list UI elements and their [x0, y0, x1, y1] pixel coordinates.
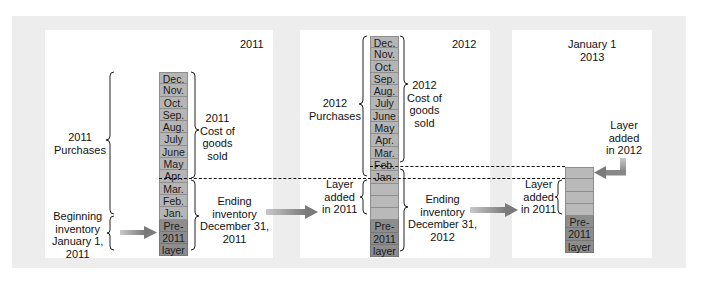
braces-and-arrows — [0, 0, 702, 285]
arrow-icon — [120, 226, 157, 239]
